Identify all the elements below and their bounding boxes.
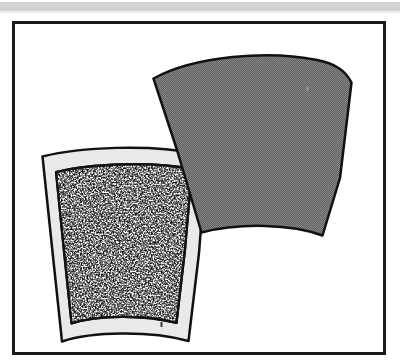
figure-page: Line-art illustration of two overlapping… xyxy=(0,0,400,362)
figure-border xyxy=(12,21,386,355)
page-header-band xyxy=(0,2,400,11)
